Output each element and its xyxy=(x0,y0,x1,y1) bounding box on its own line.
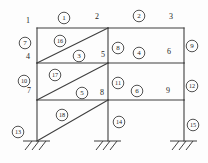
frame-diagram-canvas: 123456789123456789101112131415161718 xyxy=(0,0,208,163)
support-hatch-icon-middle xyxy=(110,141,117,150)
support-hatch-icon-middle xyxy=(103,141,110,150)
node-label-1: 1 xyxy=(26,16,30,25)
element-label-3: 3 xyxy=(77,52,81,60)
element-label-16: 16 xyxy=(57,37,63,44)
element-label-11: 11 xyxy=(115,79,121,86)
element-label-8: 8 xyxy=(116,44,120,52)
frame-diagram: 123456789123456789101112131415161718 xyxy=(0,0,208,163)
member-diagonal-16 xyxy=(37,28,108,63)
node-label-7: 7 xyxy=(27,86,31,95)
element-label-18: 18 xyxy=(59,111,65,118)
element-label-2: 2 xyxy=(137,12,141,20)
support-hatch-icon-left xyxy=(32,141,39,150)
element-label-12: 12 xyxy=(189,82,195,89)
element-label-17: 17 xyxy=(52,71,58,78)
element-label-4: 4 xyxy=(137,49,141,57)
node-label-9: 9 xyxy=(166,86,170,95)
node-label-3: 3 xyxy=(169,12,173,21)
element-label-14: 14 xyxy=(116,118,122,125)
node-label-5: 5 xyxy=(101,50,105,59)
node-label-8: 8 xyxy=(100,88,104,97)
element-label-5: 5 xyxy=(80,89,84,97)
element-label-1: 1 xyxy=(62,14,66,22)
member-diagonal-17 xyxy=(37,63,108,100)
element-label-10: 10 xyxy=(21,77,27,84)
element-label-6: 6 xyxy=(135,87,139,95)
node-label-2: 2 xyxy=(95,12,99,21)
support-hatch-icon-right xyxy=(172,141,179,150)
node-label-4: 4 xyxy=(26,52,30,61)
support-hatch-icon-middle xyxy=(96,141,103,150)
member-diagonal-18 xyxy=(37,100,108,141)
element-label-15: 15 xyxy=(190,121,196,128)
support-hatch-icon-left xyxy=(25,141,32,150)
support-hatch-icon-left xyxy=(39,141,46,150)
node-label-6: 6 xyxy=(167,47,171,56)
support-hatch-icon-right xyxy=(179,141,186,150)
support-hatch-icon-right xyxy=(186,141,193,150)
element-label-9: 9 xyxy=(190,42,194,50)
element-label-7: 7 xyxy=(23,39,27,47)
element-label-13: 13 xyxy=(15,128,21,135)
